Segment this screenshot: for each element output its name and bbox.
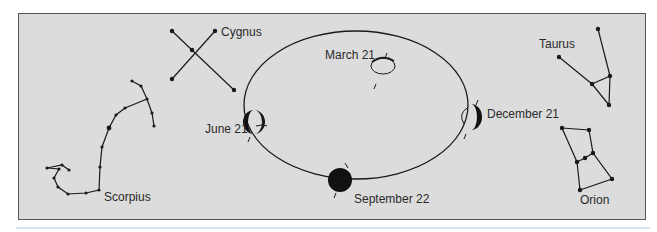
label-march-21: March 21	[325, 48, 375, 62]
label-cygnus: Cygnus	[221, 25, 262, 39]
label-september-22: September 22	[354, 192, 430, 206]
bottom-rule	[16, 227, 650, 229]
orbit-diagram: Cygnus Scorpius Taurus Orion	[0, 0, 657, 232]
label-scorpius: Scorpius	[104, 190, 151, 204]
label-orion: Orion	[580, 193, 609, 207]
label-june-21: June 21	[205, 122, 248, 136]
label-december-21: December 21	[487, 107, 559, 121]
label-taurus: Taurus	[539, 37, 575, 51]
